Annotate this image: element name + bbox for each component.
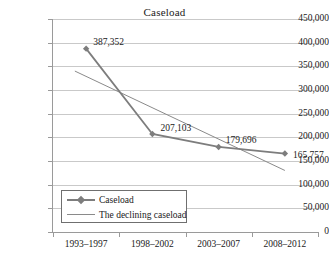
data-point-label: 179,696 xyxy=(226,135,257,145)
x-axis-tick xyxy=(119,232,120,237)
legend-marker-line-icon xyxy=(66,194,96,205)
legend-item-declining-caseload[interactable]: The declining caseload xyxy=(66,207,187,222)
gridline xyxy=(53,137,318,138)
data-point-label: 387,352 xyxy=(93,37,124,47)
y-axis-label: 50,000 xyxy=(283,203,329,213)
x-axis-label: 1993–1997 xyxy=(53,239,119,250)
legend-line-icon xyxy=(66,209,96,220)
y-axis-label: 0 xyxy=(283,227,329,237)
y-axis-label: 450,000 xyxy=(283,14,329,24)
gridline xyxy=(53,19,318,20)
y-axis-tick xyxy=(48,114,53,115)
gridline xyxy=(53,161,318,162)
y-axis-tick xyxy=(48,208,53,209)
x-axis-tick xyxy=(252,232,253,237)
chart-container: Caseload 450,000400,000350,000300,000250… xyxy=(0,0,329,260)
y-axis-label: 350,000 xyxy=(283,61,329,71)
y-axis-tick xyxy=(48,66,53,67)
y-axis-label: 100,000 xyxy=(283,180,329,190)
y-axis-tick xyxy=(48,137,53,138)
y-axis-tick xyxy=(48,19,53,20)
y-axis-line xyxy=(52,19,53,233)
x-axis-label: 1998–2002 xyxy=(119,239,185,250)
y-axis-tick xyxy=(48,43,53,44)
y-axis-tick xyxy=(48,185,53,186)
gridline xyxy=(53,185,318,186)
legend-item-caseload[interactable]: Caseload xyxy=(66,192,134,207)
x-axis-tick xyxy=(186,232,187,237)
y-axis-label: 250,000 xyxy=(283,109,329,119)
y-axis-tick xyxy=(48,90,53,91)
y-axis-tick xyxy=(48,161,53,162)
data-point-marker[interactable] xyxy=(83,45,89,51)
legend-label-declining-caseload: The declining caseload xyxy=(96,210,187,220)
gridline xyxy=(53,90,318,91)
y-axis-label: 200,000 xyxy=(283,132,329,142)
x-axis-tick xyxy=(53,232,54,237)
data-point-label: 165,757 xyxy=(293,150,324,160)
gridline xyxy=(53,66,318,67)
legend-label-caseload: Caseload xyxy=(96,195,134,205)
y-axis-label: 300,000 xyxy=(283,85,329,95)
trendline-path xyxy=(75,71,285,170)
gridline xyxy=(53,114,318,115)
data-point-marker[interactable] xyxy=(215,144,221,150)
data-point-marker[interactable] xyxy=(149,131,155,137)
x-axis-label: 2008–2012 xyxy=(252,239,318,250)
y-axis-label: 400,000 xyxy=(283,38,329,48)
chart-title: Caseload xyxy=(0,6,329,18)
data-point-label: 207,103 xyxy=(160,123,191,133)
x-axis-tick xyxy=(318,232,319,237)
chart-legend[interactable]: Caseload The declining caseload xyxy=(61,190,187,223)
x-axis-label: 2003–2007 xyxy=(186,239,252,250)
